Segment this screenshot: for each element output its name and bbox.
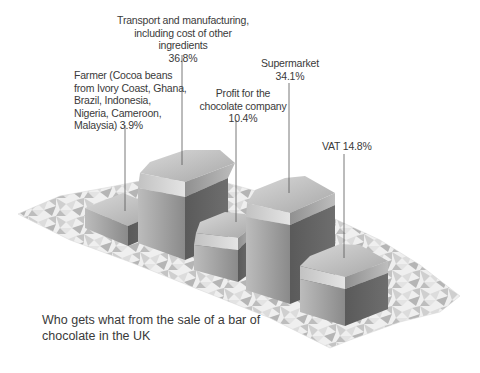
label-line: Transport and manufacturing, xyxy=(115,14,251,27)
label-line: chocolate company xyxy=(193,100,293,113)
label-line: 10.4% xyxy=(193,112,293,125)
label-line: Supermarket xyxy=(255,57,325,70)
label-line: including cost of other ingredients xyxy=(115,27,251,52)
label-line: from Ivory Coast, Ghana, xyxy=(74,82,187,95)
label-transport: Transport and manufacturing, including c… xyxy=(115,14,251,64)
label-profit: Profit for the chocolate company 10.4% xyxy=(193,87,293,125)
label-line: 36.8% xyxy=(115,52,251,65)
label-line: Malaysia) 3.9% xyxy=(74,119,187,132)
label-line: 34.1% xyxy=(255,70,325,83)
label-line: Nigeria, Cameroon, xyxy=(74,107,187,120)
caption-line: chocolate in the UK xyxy=(42,328,272,344)
label-line: Brazil, Indonesia, xyxy=(74,94,187,107)
label-line: Profit for the xyxy=(193,87,293,100)
chart-caption: Who gets what from the sale of a bar of … xyxy=(42,312,272,344)
caption-line: Who gets what from the sale of a bar of xyxy=(42,312,272,328)
label-farmer: Farmer (Cocoa beans from Ivory Coast, Gh… xyxy=(74,69,187,132)
label-vat: VAT 14.8% xyxy=(322,140,372,153)
label-line: VAT 14.8% xyxy=(322,140,372,153)
label-supermarket: Supermarket 34.1% xyxy=(255,57,325,82)
label-line: Farmer (Cocoa beans xyxy=(74,69,187,82)
